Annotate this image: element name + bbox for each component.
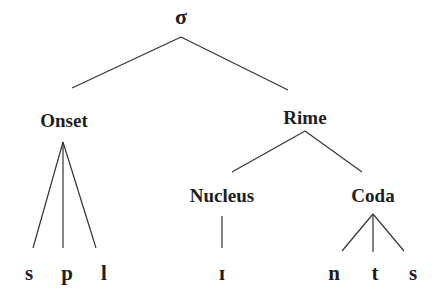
syllable-tree-diagram: σ Onset Rime Nucleus Coda s p l ɪ n t s <box>0 0 442 293</box>
edge-sigma-rime <box>181 37 288 90</box>
edge-onset-l <box>63 142 96 248</box>
nucleus-label: Nucleus <box>190 185 254 206</box>
onset-label: Onset <box>40 110 88 131</box>
segment-onset-p: p <box>61 261 73 285</box>
edge-coda-n <box>342 214 373 251</box>
edge-rime-nucleus <box>232 131 305 172</box>
segment-nucleus-i: ɪ <box>219 261 225 285</box>
segment-coda-t: t <box>372 261 379 285</box>
segment-coda-n: n <box>328 261 340 285</box>
segment-onset-s: s <box>25 261 33 285</box>
edge-onset-s <box>33 142 63 248</box>
edge-rime-coda <box>305 131 362 172</box>
edge-sigma-onset <box>72 37 181 88</box>
segment-onset-l: l <box>101 261 107 285</box>
coda-label: Coda <box>351 185 395 206</box>
rime-label: Rime <box>283 107 326 128</box>
segment-coda-s: s <box>409 261 417 285</box>
edge-coda-s <box>373 214 404 251</box>
tree-edges <box>33 37 404 252</box>
root-sigma-label: σ <box>175 4 187 29</box>
